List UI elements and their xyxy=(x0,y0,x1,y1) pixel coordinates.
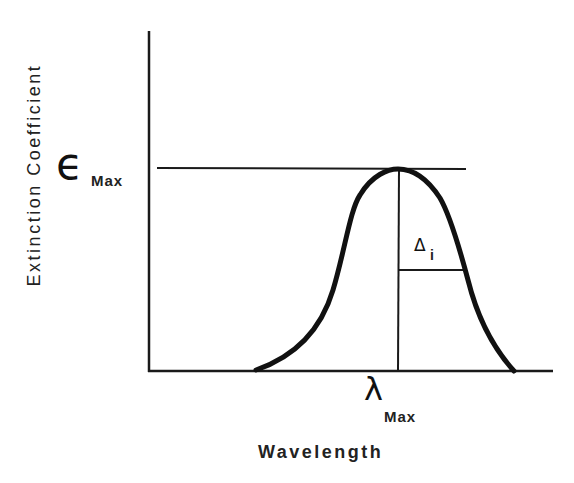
delta-subscript: i xyxy=(430,247,434,263)
y-axis-label: Extinction Coefficient xyxy=(24,64,45,287)
absorption-curve xyxy=(256,169,514,371)
absorption-band-diagram: Extinction Coefficient Wavelength ϵ Max … xyxy=(0,0,574,483)
lambda-max-line xyxy=(398,169,399,371)
lambda-subscript: Max xyxy=(384,408,416,425)
epsilon-symbol: ϵ xyxy=(56,142,83,186)
delta-symbol: Δ xyxy=(414,237,426,254)
lambda-symbol: λ xyxy=(364,373,383,405)
x-axis-label: Wavelength xyxy=(258,442,383,463)
epsilon-subscript: Max xyxy=(91,172,123,189)
diagram-canvas xyxy=(0,0,574,483)
epsilon-max-line xyxy=(157,168,466,169)
